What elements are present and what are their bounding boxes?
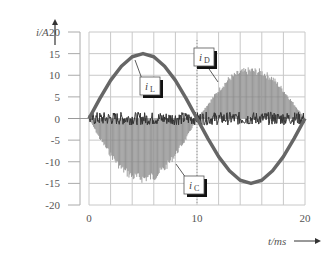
y-tick-label: 15	[49, 48, 61, 60]
x-tick-label: 0	[86, 212, 92, 224]
y-tick-label: -15	[45, 177, 60, 189]
y-tick-label: -5	[51, 134, 61, 146]
y-tick-label: 10	[49, 69, 61, 81]
callout-pointer	[135, 60, 142, 79]
y-axis-label: i/A	[36, 26, 49, 38]
callout-label: i	[189, 179, 192, 191]
callout-il: iL	[135, 60, 163, 98]
x-axis-label: t/ms	[268, 235, 286, 247]
y-tick-label: 0	[55, 113, 61, 125]
callout-subscript: L	[150, 85, 155, 94]
callout-subscript: C	[194, 184, 199, 193]
y-tick-label: 5	[55, 91, 61, 103]
y-axis-arrowhead	[52, 19, 58, 25]
x-axis-arrowhead	[315, 238, 321, 244]
callout-ic: iC	[176, 164, 207, 197]
x-tick-label: 20	[300, 212, 312, 224]
callout-label: i	[199, 51, 202, 63]
x-tick-label: 10	[192, 212, 204, 224]
callout-id: iD	[194, 48, 218, 82]
chart-container: 20151050-5-10-15-2001020i/At/msiLiDiC	[0, 0, 324, 258]
y-tick-label: -10	[45, 156, 60, 168]
plot-svg: 20151050-5-10-15-2001020i/At/msiLiDiC	[0, 0, 324, 258]
callout-subscript: D	[204, 56, 210, 65]
callout-label: i	[145, 80, 148, 92]
y-tick-label: -20	[45, 199, 60, 211]
